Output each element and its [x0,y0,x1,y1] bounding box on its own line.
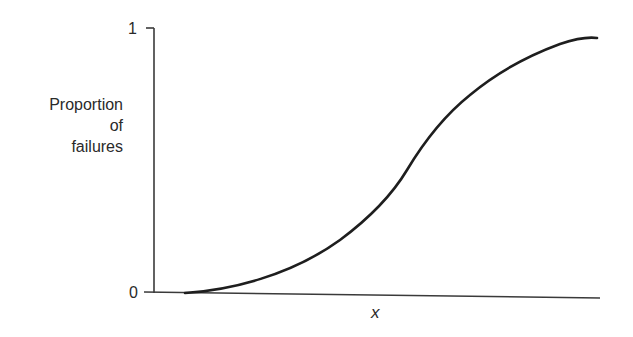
y-tick-label-bottom: 0 [129,285,138,301]
plot-area [0,0,633,337]
y-axis-label-line-1: Proportion [49,94,123,115]
x-axis-label: x [371,303,380,323]
y-axis-label: Proportion of failures [49,94,123,157]
failure-curve [185,38,597,293]
y-tick-label-top: 1 [128,21,137,37]
y-axis-label-line-2: of [49,115,123,136]
x-axis [144,292,600,298]
y-axis-label-line-3: failures [49,136,123,157]
